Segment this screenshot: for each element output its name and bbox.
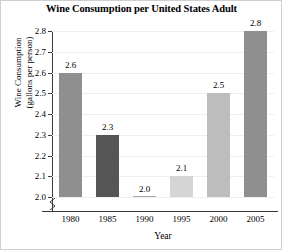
bar-slot: 2.5	[200, 31, 237, 197]
y-axis-tick-label: 2.5	[35, 89, 46, 98]
bar-value-label: 2.0	[126, 185, 163, 194]
bar-slot: 2.6	[52, 31, 89, 197]
gridline	[52, 197, 274, 198]
bar-value-label: 2.8	[237, 19, 274, 28]
bar-slot: 2.1	[163, 31, 200, 197]
y-axis-tick-label: 2.4	[35, 110, 46, 119]
bar-slot: 2.3	[89, 31, 126, 197]
y-axis-tick-label: 2.6	[35, 68, 46, 77]
bar[interactable]	[207, 93, 230, 197]
y-axis-tick-label: 2.1	[35, 172, 46, 181]
bar[interactable]	[59, 73, 82, 198]
y-axis-title-line1: Wine Consumption	[13, 3, 24, 143]
y-axis-tick	[48, 197, 52, 198]
axis-break-icon	[49, 198, 56, 210]
y-axis-title-line2: (gallons per person)	[23, 3, 34, 143]
x-axis-tick-label: 2005	[237, 214, 274, 224]
bar[interactable]	[244, 31, 267, 197]
bar-value-label: 2.6	[52, 61, 89, 70]
plot-area: 2.02.12.22.32.42.52.62.72.8 2.62.32.02.1…	[52, 31, 274, 197]
x-axis-tick-label: 1995	[163, 214, 200, 224]
chart-title: Wine Consumption per United States Adult	[0, 3, 283, 14]
x-axis-tick-label: 1990	[126, 214, 163, 224]
bar[interactable]	[133, 196, 156, 197]
bar-value-label: 2.3	[89, 123, 126, 132]
y-axis-tick-label: 2.0	[35, 193, 46, 202]
y-axis-tick-label: 2.7	[35, 47, 46, 56]
bar[interactable]	[170, 176, 193, 197]
y-axis-tick-label: 2.2	[35, 151, 46, 160]
y-axis-tick-label: 2.3	[35, 130, 46, 139]
bar-value-label: 2.1	[163, 164, 200, 173]
x-axis-tick-label: 1985	[89, 214, 126, 224]
x-axis-tick-label: 2000	[200, 214, 237, 224]
x-axis-tick-label: 1980	[52, 214, 89, 224]
x-axis-line	[42, 211, 278, 212]
bar-slot: 2.0	[126, 31, 163, 197]
bar[interactable]	[96, 135, 119, 197]
bar-slot: 2.8	[237, 31, 274, 197]
y-axis-title: Wine Consumption (gallons per person)	[13, 3, 34, 143]
bar-value-label: 2.5	[200, 81, 237, 90]
bar-series: 2.62.32.02.12.52.8	[52, 31, 274, 197]
y-axis-tick-label: 2.8	[35, 27, 46, 36]
x-axis-title: Year	[52, 231, 274, 241]
